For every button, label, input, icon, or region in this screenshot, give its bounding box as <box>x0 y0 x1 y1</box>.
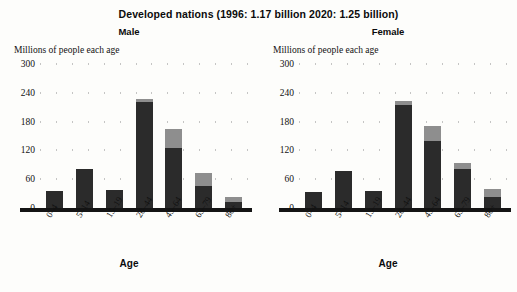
y-tick-label: 300 <box>21 59 35 69</box>
y-tick-label: 300 <box>280 59 294 69</box>
x-tick-labels-female: 0–45–1415–1920–4445–6465–7980+ <box>299 214 507 258</box>
y-axis-caption-female: Millions of people each age <box>273 45 379 55</box>
chart-main-title: Developed nations (1996: 1.17 billion 20… <box>0 8 517 20</box>
panel-title-female: Female <box>259 26 517 37</box>
x-axis-title-female: Age <box>259 258 517 269</box>
plot-area-male: 060120180240300 <box>40 64 248 208</box>
y-tick-label: 60 <box>285 174 295 184</box>
bar-20-44 <box>136 99 153 208</box>
y-tick-label: 240 <box>280 88 294 98</box>
y-tick-label: 120 <box>280 145 294 155</box>
bar-segment-2020 <box>424 126 441 140</box>
y-tick-label: 120 <box>21 145 35 155</box>
y-tick-label: 180 <box>280 117 294 127</box>
chart-page: Developed nations (1996: 1.17 billion 20… <box>0 0 517 292</box>
bars-female <box>299 64 507 208</box>
bar-segment-2020 <box>165 129 182 148</box>
y-tick-label: 180 <box>21 117 35 127</box>
panel-title-male: Male <box>0 26 258 37</box>
bar-segment-2020 <box>484 189 501 198</box>
y-tick-label: 240 <box>21 88 35 98</box>
bar-segment-2020 <box>195 173 212 186</box>
bar-20-44 <box>395 101 412 208</box>
x-tick-labels-male: 0–45–1415–1920–4445–6465–7980+ <box>40 214 248 258</box>
bar-segment-1996 <box>136 102 153 208</box>
plot-area-female: 060120180240300 <box>299 64 507 208</box>
panel-female: Female Millions of people each age 06012… <box>259 26 517 292</box>
y-tick-label: 60 <box>26 174 36 184</box>
bar-segment-1996 <box>395 105 412 208</box>
x-axis-title-male: Age <box>0 258 258 269</box>
y-axis-caption-male: Millions of people each age <box>14 45 120 55</box>
bars-male <box>40 64 248 208</box>
panel-male: Male Millions of people each age 0601201… <box>0 26 258 292</box>
